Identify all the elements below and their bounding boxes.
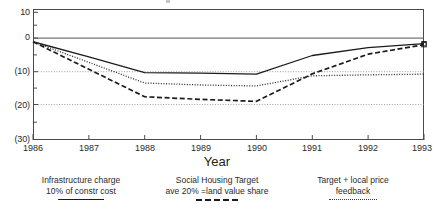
legend-item-target-local-price-feedback: Target + local price feedback <box>293 174 413 203</box>
y-axis-ticks <box>33 12 38 139</box>
legend-label-line2: 10% of constr cost <box>21 186 141 197</box>
y-tick-label: 10 <box>0 8 30 17</box>
legend-label-line1: Infrastructure charge <box>21 174 141 186</box>
series-line-solid <box>33 42 424 74</box>
data-series-group <box>33 42 426 102</box>
legend-label-line2: feedback <box>293 186 413 197</box>
legend-label-line1: Social Housing Target <box>157 174 277 186</box>
legend-item-infrastructure-charge: Infrastructure charge 10% of constr cost <box>21 174 141 203</box>
legend-swatch-dashed-line <box>196 199 238 204</box>
scan-artifact <box>166 0 170 3</box>
legend-label-line2: ave 20% =land value share <box>157 186 277 197</box>
legend-item-social-housing-target: Social Housing Target ave 20% =land valu… <box>157 174 277 204</box>
x-axis-title: Year <box>0 154 434 170</box>
x-axis-ticks <box>33 134 424 140</box>
plot-canvas <box>33 9 424 140</box>
y-tick-label: 0 <box>0 33 30 42</box>
legend-label-line1: Target + local price <box>293 174 413 186</box>
y-tick-label: (20) <box>0 101 30 110</box>
x-tick-label: 1986 <box>13 143 53 153</box>
x-tick-label: 1991 <box>292 143 332 153</box>
x-tick-label: 1992 <box>348 143 388 153</box>
x-tick-label: 1987 <box>69 143 109 153</box>
y-tick-label: (10) <box>0 67 30 76</box>
x-tick-label: 1993 <box>402 143 434 153</box>
x-tick-label: 1988 <box>125 143 165 153</box>
x-tick-label: 1990 <box>237 143 277 153</box>
chart-legend: Infrastructure charge 10% of constr cost… <box>0 174 434 210</box>
chart-figure: 10 0 (10) (20) (30) <box>0 0 434 210</box>
legend-swatch-dotted-line <box>329 199 377 203</box>
x-tick-label: 1989 <box>181 143 221 153</box>
legend-swatch-solid-line <box>58 199 104 203</box>
